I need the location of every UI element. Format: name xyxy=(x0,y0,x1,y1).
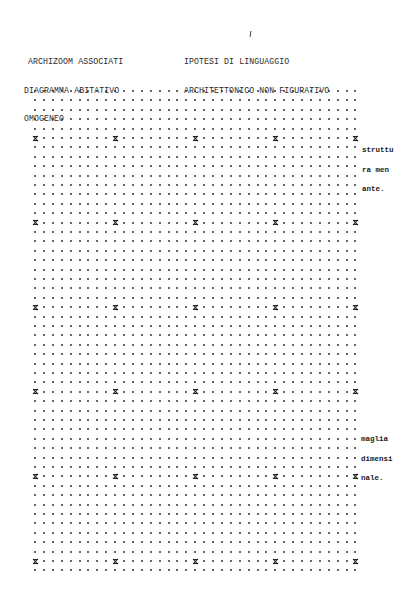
grid-dot xyxy=(176,193,178,195)
grid-dot xyxy=(230,231,232,233)
grid-dot xyxy=(168,410,170,412)
grid-dot xyxy=(79,269,81,271)
grid-dot xyxy=(319,269,321,271)
grid-dot xyxy=(283,438,285,440)
grid-dot xyxy=(221,391,223,393)
grid-dot xyxy=(168,541,170,543)
grid-dot xyxy=(337,466,339,468)
grid-dot xyxy=(141,231,143,233)
grid-dot xyxy=(346,222,348,224)
grid-dot xyxy=(354,494,356,496)
grid-dot xyxy=(346,400,348,402)
grid-dot xyxy=(203,250,205,252)
grid-dot xyxy=(43,193,45,195)
grid-dot xyxy=(43,569,45,571)
grid-dot xyxy=(185,560,187,562)
grid-dot xyxy=(87,128,89,130)
grid-dot xyxy=(194,156,196,158)
grid-dot xyxy=(257,156,259,158)
grid-dot xyxy=(230,278,232,280)
grid-dot xyxy=(194,128,196,130)
grid-dot xyxy=(70,532,72,534)
grid-dot xyxy=(87,231,89,233)
grid-dot xyxy=(159,175,161,177)
grid-dot xyxy=(265,410,267,412)
grid-dot xyxy=(52,278,54,280)
grid-dot xyxy=(79,532,81,534)
grid-dot xyxy=(176,522,178,524)
grid-dot xyxy=(319,156,321,158)
grid-dot xyxy=(87,146,89,148)
grid-dot xyxy=(141,391,143,393)
grid-dot xyxy=(354,193,356,195)
grid-dot xyxy=(230,99,232,101)
grid-dot xyxy=(194,372,196,374)
grid-dot xyxy=(150,297,152,299)
grid-dot xyxy=(265,297,267,299)
grid-dot xyxy=(283,137,285,139)
grid-dot xyxy=(114,146,116,148)
grid-dot xyxy=(87,438,89,440)
grid-dot xyxy=(230,457,232,459)
grid-dot xyxy=(283,240,285,242)
grid-dot xyxy=(43,250,45,252)
grid-dot xyxy=(52,297,54,299)
grid-dot xyxy=(203,457,205,459)
grid-dot xyxy=(61,551,63,553)
grid-dot xyxy=(150,381,152,383)
grid-dot xyxy=(70,419,72,421)
x-marker-icon xyxy=(193,389,198,394)
grid-dot xyxy=(123,551,125,553)
grid-dot xyxy=(52,363,54,365)
grid-dot xyxy=(230,146,232,148)
grid-dot xyxy=(346,165,348,167)
grid-dot xyxy=(61,466,63,468)
grid-dot xyxy=(239,259,241,261)
grid-dot xyxy=(239,278,241,280)
grid-dot xyxy=(34,438,36,440)
grid-dot xyxy=(257,494,259,496)
grid-dot xyxy=(354,466,356,468)
grid-dot xyxy=(70,353,72,355)
grid-dot xyxy=(274,128,276,130)
grid-dot xyxy=(114,165,116,167)
grid-dot xyxy=(185,184,187,186)
grid-dot xyxy=(292,560,294,562)
grid-dot xyxy=(52,334,54,336)
grid-dot xyxy=(212,203,214,205)
grid-dot xyxy=(337,475,339,477)
grid-dot xyxy=(257,278,259,280)
grid-dot xyxy=(43,269,45,271)
grid-dot xyxy=(239,353,241,355)
grid-dot xyxy=(52,212,54,214)
grid-dot xyxy=(105,146,107,148)
grid-dot xyxy=(87,325,89,327)
grid-dot xyxy=(34,109,36,111)
grid-dot xyxy=(194,353,196,355)
grid-dot xyxy=(283,372,285,374)
grid-dot xyxy=(176,334,178,336)
grid-dot xyxy=(301,306,303,308)
grid-dot xyxy=(230,184,232,186)
grid-dot xyxy=(168,485,170,487)
grid-dot xyxy=(150,250,152,252)
grid-dot xyxy=(176,325,178,327)
grid-dot xyxy=(87,156,89,158)
grid-dot xyxy=(310,137,312,139)
grid-dot xyxy=(203,494,205,496)
grid-dot xyxy=(203,466,205,468)
grid-dot xyxy=(132,494,134,496)
grid-dot xyxy=(185,551,187,553)
grid-dot xyxy=(301,466,303,468)
grid-dot xyxy=(123,475,125,477)
grid-dot xyxy=(150,541,152,543)
grid-dot xyxy=(132,391,134,393)
grid-dot xyxy=(274,569,276,571)
grid-dot xyxy=(61,287,63,289)
grid-dot xyxy=(257,222,259,224)
grid-dot xyxy=(34,419,36,421)
grid-dot xyxy=(176,297,178,299)
grid-dot xyxy=(194,278,196,280)
grid-dot xyxy=(239,250,241,252)
grid-dot xyxy=(203,334,205,336)
